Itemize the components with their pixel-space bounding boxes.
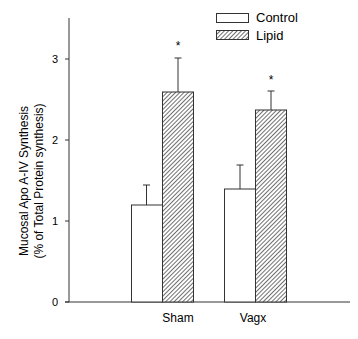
legend-label-lipid: Lipid — [256, 28, 283, 43]
bar-sham-lipid — [163, 92, 194, 302]
ytick-label: 1 — [52, 215, 58, 227]
bar-group-sham: * — [132, 39, 194, 302]
legend-label-control: Control — [256, 10, 298, 25]
legend: Control Lipid — [217, 10, 299, 43]
category-label-sham: Sham — [162, 311, 193, 325]
svg-text:Mucosal Apo A-IV Synthesis: Mucosal Apo A-IV Synthesis — [17, 106, 31, 256]
significance-marker: * — [269, 73, 274, 87]
legend-swatch-control — [217, 14, 249, 23]
legend-swatch-lipid — [217, 31, 249, 40]
y-ticks: 0 1 2 3 — [52, 53, 69, 308]
significance-marker: * — [176, 39, 181, 53]
bar-group-vagx: * — [225, 73, 287, 302]
ytick-label: 2 — [52, 134, 58, 146]
bar-sham-control — [132, 205, 163, 302]
ytick-label: 0 — [52, 296, 58, 308]
svg-text:(% of Total Protein synthesis): (% of Total Protein synthesis) — [32, 103, 46, 258]
bar-chart: Mucosal Apo A-IV Synthesis (% of Total P… — [0, 0, 358, 339]
ytick-label: 3 — [52, 53, 58, 65]
category-label-vagx: Vagx — [240, 311, 266, 325]
y-axis-label: Mucosal Apo A-IV Synthesis (% of Total P… — [17, 103, 46, 258]
bar-vagx-lipid — [256, 110, 287, 302]
bar-vagx-control — [225, 189, 256, 302]
